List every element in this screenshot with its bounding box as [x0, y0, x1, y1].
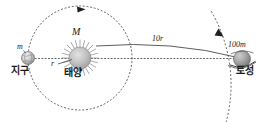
earth-mass-label: m: [17, 43, 23, 51]
distance-label: 10r: [152, 35, 163, 43]
radius-label: r: [51, 60, 54, 68]
earth-orbit-arrowhead: [77, 7, 86, 13]
diagram-svg: [0, 0, 270, 122]
sun-name-label: 태양: [64, 68, 81, 78]
saturn-orbit-path: [211, 10, 232, 122]
sun-mass-label: M: [72, 27, 80, 37]
earth-icon: [22, 51, 35, 65]
distance-arc-line: [96, 45, 240, 59]
figure-canvas: m 지구 M 태양 r 10r 100m 토성: [0, 0, 270, 122]
saturn-mass-label: 100m: [228, 41, 246, 49]
saturn-orbit-arrowhead: [215, 29, 224, 37]
saturn-name-label: 토성: [236, 66, 253, 76]
earth-name-label: 지구: [11, 66, 28, 76]
